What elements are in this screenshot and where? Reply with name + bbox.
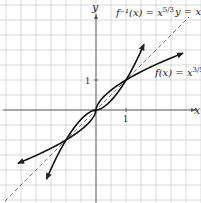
y-tick-1: 1 [85,76,90,86]
y-axis-label: y [92,2,98,13]
x-tick-1: 1 [123,114,128,124]
graph-canvas [0,0,201,203]
x-axis-label: x [194,105,200,116]
identity-label: y = x [175,7,201,17]
finv-label: f⁻¹(x) = x5/3 [116,7,174,18]
f-label: f(x) = x3/5 [155,67,201,78]
